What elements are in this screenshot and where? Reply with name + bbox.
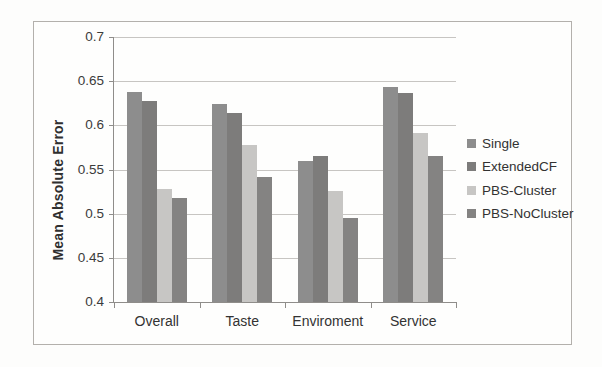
- legend-marker-icon: [467, 186, 476, 195]
- x-tick-mark: [114, 302, 115, 308]
- bar-group-overall: Overall: [114, 37, 200, 302]
- legend-item-single: Single: [467, 136, 574, 150]
- y-tick-label-0.7: 0.7: [52, 29, 104, 44]
- category-label-enviroment: Enviroment: [285, 313, 371, 329]
- legend-label: PBS-Cluster: [482, 183, 556, 198]
- x-tick-mark: [200, 302, 201, 308]
- legend-item-pbs-nocluster: PBS-NoCluster: [467, 207, 574, 221]
- bar-single-service: [383, 87, 398, 302]
- plot-area: 0.40.450.50.550.60.650.7OverallTasteEnvi…: [113, 37, 456, 303]
- bar-pbs-cluster-taste: [242, 145, 257, 302]
- category-label-overall: Overall: [114, 313, 200, 329]
- legend: SingleExtendedCFPBS-ClusterPBS-NoCluster: [467, 136, 574, 221]
- bar-group-enviroment: Enviroment: [285, 37, 371, 302]
- y-tick-label-0.45: 0.45: [52, 250, 104, 265]
- scanned-figure-page: Mean Absolute Error 0.40.450.50.550.60.6…: [0, 0, 602, 367]
- legend-item-pbs-cluster: PBS-Cluster: [467, 183, 574, 197]
- bar-single-taste: [212, 104, 227, 302]
- y-tick-label-0.65: 0.65: [52, 73, 104, 88]
- y-tick-label-0.4: 0.4: [52, 294, 104, 309]
- y-axis-title: Mean Absolute Error: [50, 120, 66, 261]
- bar-extendedcf-service: [398, 93, 413, 302]
- bar-groups: OverallTasteEnviromentService: [114, 37, 456, 302]
- bar-group-taste: Taste: [200, 37, 286, 302]
- y-tick-label-0.55: 0.55: [52, 162, 104, 177]
- bar-pbs-cluster-enviroment: [328, 191, 343, 302]
- x-tick-mark: [456, 302, 457, 308]
- bar-single-enviroment: [298, 161, 313, 302]
- y-tick-label-0.6: 0.6: [52, 117, 104, 132]
- x-tick-mark: [285, 302, 286, 308]
- category-label-service: Service: [371, 313, 457, 329]
- legend-item-extendedcf: ExtendedCF: [467, 160, 574, 174]
- chart-frame: Mean Absolute Error 0.40.450.50.550.60.6…: [33, 21, 572, 345]
- legend-marker-icon: [467, 139, 476, 148]
- bar-single-overall: [127, 92, 142, 302]
- legend-label: PBS-NoCluster: [482, 206, 574, 221]
- bar-pbs-nocluster-service: [428, 156, 443, 302]
- legend-marker-icon: [467, 162, 476, 171]
- bar-pbs-cluster-overall: [157, 189, 172, 302]
- legend-label: ExtendedCF: [482, 159, 557, 174]
- legend-marker-icon: [467, 209, 476, 218]
- bar-extendedcf-enviroment: [313, 156, 328, 302]
- bar-group-service: Service: [371, 37, 457, 302]
- category-label-taste: Taste: [200, 313, 286, 329]
- legend-label: Single: [482, 136, 520, 151]
- bar-pbs-nocluster-overall: [172, 198, 187, 302]
- bar-extendedcf-overall: [142, 101, 157, 302]
- bar-pbs-nocluster-enviroment: [343, 218, 358, 302]
- y-tick-label-0.5: 0.5: [52, 206, 104, 221]
- x-tick-mark: [371, 302, 372, 308]
- bar-pbs-cluster-service: [413, 133, 428, 302]
- bar-extendedcf-taste: [227, 113, 242, 302]
- bar-pbs-nocluster-taste: [257, 177, 272, 302]
